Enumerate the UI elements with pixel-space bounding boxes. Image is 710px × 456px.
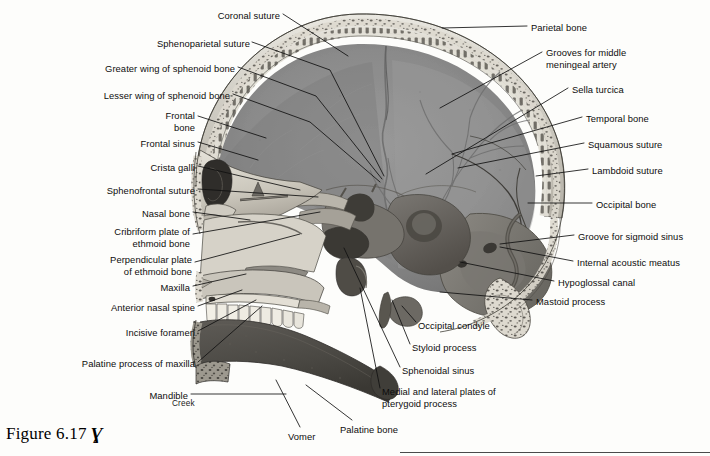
anatomy-figure: Coronal sutureSphenoparietal sutureGreat… bbox=[0, 0, 710, 456]
artist-signature: Creek bbox=[172, 399, 195, 408]
figure-caption-text: Figure 6.17 bbox=[6, 424, 87, 443]
caption-layer: Creek Figure 6.17Ɣ bbox=[0, 0, 710, 456]
figure-caption: Figure 6.17Ɣ bbox=[6, 424, 103, 444]
figure-caption-glyph: Ɣ bbox=[87, 424, 103, 443]
bottom-rule bbox=[400, 452, 710, 453]
